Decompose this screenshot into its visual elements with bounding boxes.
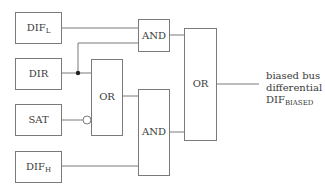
label-or-mid: OR (91, 92, 123, 102)
label-or-final: OR (184, 79, 217, 89)
output-line2: differential (266, 82, 322, 94)
label-dif-l: DIFL (15, 23, 62, 35)
label-sat: SAT (15, 115, 62, 125)
output-label: biased bus differential DIFBIASED (266, 70, 322, 109)
output-line1: biased bus (266, 70, 322, 82)
junction-dot (76, 71, 80, 75)
output-line3: DIFBIASED (266, 94, 322, 109)
inverter-bubble-icon (83, 116, 91, 124)
label-dir: DIR (15, 69, 62, 79)
label-and-bottom: AND (138, 127, 170, 137)
label-and-top: AND (138, 31, 170, 41)
label-dif-h: DIFH (15, 162, 62, 174)
